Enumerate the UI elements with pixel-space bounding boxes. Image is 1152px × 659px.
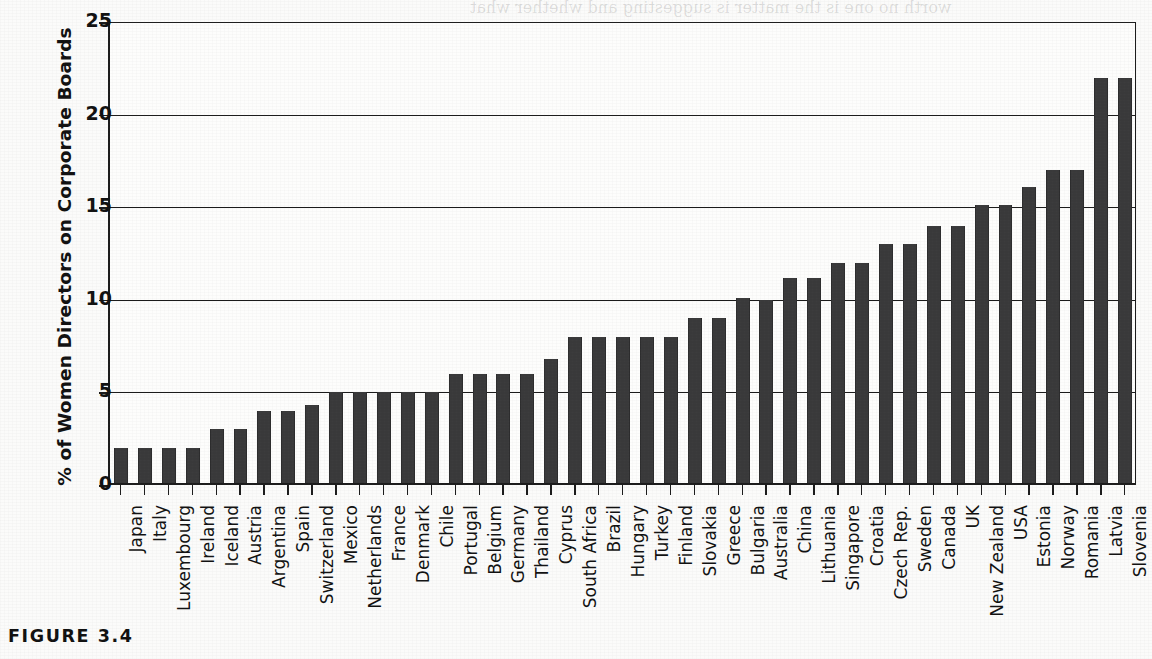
x-axis-label: Lithuania xyxy=(819,416,839,500)
x-axis-label-text: Argentina xyxy=(269,500,289,588)
x-tick-mark xyxy=(120,485,121,495)
x-axis-label-text: Iceland xyxy=(222,500,242,567)
x-axis-label-text: Slovenia xyxy=(1130,500,1150,577)
x-axis-label-text: Canada xyxy=(939,500,959,570)
figure-caption: FIGURE 3.4 xyxy=(8,626,134,646)
x-axis-label: Japan xyxy=(126,448,146,500)
x-axis-label: Belgium xyxy=(485,425,505,500)
x-axis-label-text: Spain xyxy=(293,500,313,553)
x-axis-label-text: Bulgaria xyxy=(748,500,768,576)
x-axis-label: Denmark xyxy=(413,417,433,500)
x-axis-label-text: Netherlands xyxy=(365,500,385,609)
x-axis-label-text: Luxembourg xyxy=(174,500,194,611)
x-axis-label-text: Australia xyxy=(771,500,791,580)
x-axis-label: Finland xyxy=(676,434,696,500)
y-tick-label: 10 xyxy=(52,287,112,309)
x-axis-label: Germany xyxy=(508,417,528,500)
x-axis-line xyxy=(108,483,1136,485)
gridline xyxy=(108,115,1136,116)
x-axis-label: Sweden xyxy=(915,428,935,500)
x-axis-label: Ireland xyxy=(198,436,218,500)
bar-chart-figure: % of Women Directors on Corporate Boards… xyxy=(0,0,1152,659)
x-axis-label-text: Cyprus xyxy=(556,500,576,564)
x-axis-label: Italy xyxy=(150,458,170,500)
x-axis-label: Estonia xyxy=(1034,432,1054,500)
x-axis-label: Australia xyxy=(771,420,791,500)
x-axis-label-text: Romania xyxy=(1082,500,1102,579)
x-axis-label: Latvia xyxy=(1106,443,1126,500)
x-axis-label-text: Switzerland xyxy=(317,500,337,604)
x-axis-label: Portugal xyxy=(461,425,481,500)
x-axis-label-text: Slovakia xyxy=(700,500,720,576)
x-axis-label: Slovakia xyxy=(700,424,720,500)
x-axis-label: Greece xyxy=(724,434,744,500)
x-axis-label-text: Turkey xyxy=(652,500,672,560)
x-axis-label-text: Latvia xyxy=(1106,500,1126,557)
x-axis-label-text: South Africa xyxy=(580,500,600,608)
gridline xyxy=(108,22,1136,23)
x-axis-label-text: Czech Rep. xyxy=(891,500,911,599)
x-axis-label: Slovenia xyxy=(1130,423,1150,500)
y-tick-label: 5 xyxy=(52,379,112,401)
x-axis-label-text: Germany xyxy=(508,500,528,583)
x-axis-label-text: Japan xyxy=(126,500,146,552)
x-axis-label: UK xyxy=(963,471,983,500)
x-axis-label-text: Greece xyxy=(724,500,744,566)
x-axis-label: Iceland xyxy=(222,433,242,500)
x-axis-label-text: UK xyxy=(963,500,983,529)
x-axis-label-text: Italy xyxy=(150,500,170,542)
y-tick-label: 25 xyxy=(52,9,112,31)
x-axis-label: France xyxy=(389,438,409,500)
x-axis-label-text: Denmark xyxy=(413,500,433,583)
x-axis-label-text: Sweden xyxy=(915,500,935,572)
x-axis-label: Bulgaria xyxy=(748,425,768,501)
x-axis-label: Canada xyxy=(939,430,959,500)
x-axis-label-text: Thailand xyxy=(532,500,552,578)
x-axis-label-text: Hungary xyxy=(628,500,648,578)
y-axis-title: % of Women Directors on Corporate Boards xyxy=(54,17,75,497)
x-axis-label: Mexico xyxy=(341,436,361,500)
x-axis-label-text: Lithuania xyxy=(819,500,839,584)
plot-right-border xyxy=(1135,22,1136,485)
y-tick-label: 20 xyxy=(52,102,112,124)
x-axis-label: Norway xyxy=(1058,431,1078,501)
y-tick-label: 15 xyxy=(52,194,112,216)
x-axis-label: Chile xyxy=(437,452,457,500)
x-axis-label-text: New Zealand xyxy=(987,500,1007,617)
y-axis-line xyxy=(108,22,110,485)
x-axis-label: Thailand xyxy=(532,422,552,500)
x-axis-label-text: France xyxy=(389,500,409,562)
x-axis-label-text: Finland xyxy=(676,500,696,566)
x-axis-label: Turkey xyxy=(652,440,672,500)
x-axis-label-text: Belgium xyxy=(485,500,505,575)
x-axis-label: Brazil xyxy=(604,448,624,500)
x-axis-label: Argentina xyxy=(269,412,289,500)
x-axis-label: Czech Rep. xyxy=(891,401,911,500)
x-axis-label-text: Austria xyxy=(245,500,265,565)
x-axis-label-text: Singapore xyxy=(843,500,863,591)
x-axis-label: Croatia xyxy=(867,434,887,500)
x-axis-label-text: Ireland xyxy=(198,500,218,564)
x-axis-label: China xyxy=(795,446,815,500)
y-tick-label: 0 xyxy=(52,472,112,494)
x-axis-label: Cyprus xyxy=(556,436,576,500)
x-axis-label-text: USA xyxy=(1011,500,1031,540)
plot-area: JapanItalyLuxembourgIrelandIcelandAustri… xyxy=(108,22,1136,485)
x-axis-label-text: Portugal xyxy=(461,500,481,575)
x-axis-label-text: Chile xyxy=(437,500,457,548)
x-axis-label-text: Mexico xyxy=(341,500,361,564)
x-axis-label: Austria xyxy=(245,435,265,500)
x-axis-label: Romania xyxy=(1082,421,1102,500)
x-axis-label: Singapore xyxy=(843,409,863,500)
x-axis-label-text: Estonia xyxy=(1034,500,1054,568)
x-axis-label: USA xyxy=(1011,460,1031,500)
x-axis-label-text: Croatia xyxy=(867,500,887,566)
x-axis-label-text: China xyxy=(795,500,815,554)
x-axis-label: Spain xyxy=(293,448,313,501)
x-axis-label-text: Brazil xyxy=(604,500,624,552)
x-axis-label: Hungary xyxy=(628,422,648,500)
x-axis-label-text: Norway xyxy=(1058,500,1078,570)
